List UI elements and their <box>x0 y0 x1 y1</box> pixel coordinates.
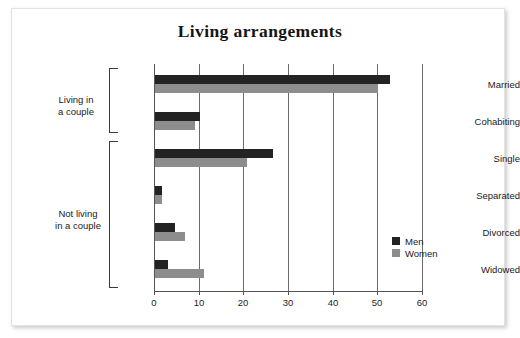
bar-cohabiting-women <box>155 121 195 130</box>
gridline-50 <box>377 64 378 291</box>
bar-cohabiting-men <box>155 112 200 121</box>
xtick-label-20: 20 <box>238 297 249 308</box>
gridline-40 <box>333 64 334 291</box>
gridline-10 <box>199 64 200 291</box>
legend-label-men: Men <box>405 236 423 247</box>
plot-area: 0 10 20 30 40 50 60 <box>154 64 422 291</box>
page-title: Living arrangements <box>0 21 520 42</box>
gridline-30 <box>288 64 289 291</box>
bracket-not-living-in-a-couple <box>109 141 118 288</box>
group-label-not-living-in-a-couple: Not living in a couple <box>47 208 109 232</box>
xtick-label-50: 50 <box>372 297 383 308</box>
bar-married-women <box>155 84 378 93</box>
y-axis-line <box>154 64 155 291</box>
bar-single-men <box>155 149 273 158</box>
legend-swatch-women-icon <box>392 249 400 257</box>
bracket-living-in-a-couple <box>109 68 118 133</box>
legend-label-women: Women <box>405 248 438 259</box>
tick-10 <box>199 291 200 295</box>
tick-30 <box>288 291 289 295</box>
legend-swatch-men-icon <box>392 237 400 245</box>
xtick-label-60: 60 <box>417 297 428 308</box>
bar-widowed-women <box>155 269 204 278</box>
gridline-20 <box>243 64 244 291</box>
tick-60 <box>422 291 423 295</box>
bar-separated-women <box>155 195 162 204</box>
xtick-label-40: 40 <box>328 297 339 308</box>
group-label-living-in-a-couple: Living in a couple <box>47 94 105 118</box>
xtick-label-0: 0 <box>151 297 156 308</box>
bar-divorced-men <box>155 223 175 232</box>
bar-separated-men <box>155 186 162 195</box>
tick-40 <box>333 291 334 295</box>
bar-divorced-women <box>155 232 185 241</box>
bar-widowed-men <box>155 260 168 269</box>
legend: Men Women <box>392 235 438 259</box>
legend-item-men: Men <box>392 235 438 247</box>
bar-married-men <box>155 75 390 84</box>
tick-0 <box>154 291 155 295</box>
bar-single-women <box>155 158 247 167</box>
tick-20 <box>243 291 244 295</box>
tick-50 <box>377 291 378 295</box>
xtick-label-10: 10 <box>194 297 205 308</box>
xtick-label-30: 30 <box>283 297 294 308</box>
legend-item-women: Women <box>392 247 438 259</box>
chart-page: Living arrangements Living in a couple N… <box>0 0 520 338</box>
